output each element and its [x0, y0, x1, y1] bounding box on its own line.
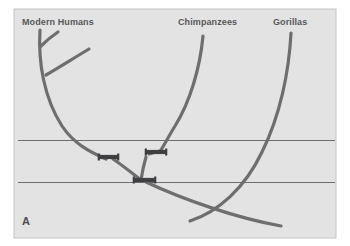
panel-letter-label: A	[22, 215, 30, 227]
phylogenetic-tree-canvas	[0, 0, 350, 246]
phylogenetic-tree-figure: Modern Humans Chimpanzees Gorillas A	[0, 0, 350, 246]
tip-label-gorillas: Gorillas	[273, 17, 307, 27]
tip-label-chimpanzees: Chimpanzees	[178, 17, 237, 27]
tip-label-modern-humans: Modern Humans	[22, 17, 94, 27]
